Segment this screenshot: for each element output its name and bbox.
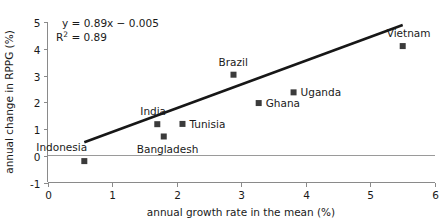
point-label-tunisia: Tunisia: [188, 118, 225, 130]
y-tick-label-4: 4: [34, 44, 41, 56]
y-tick-label-5: 5: [34, 17, 41, 29]
marker-vietnam: [400, 43, 406, 49]
x-tick-label-1: 1: [109, 189, 116, 201]
x-axis-tick-labels: 0123456: [45, 189, 439, 201]
marker-indonesia: [81, 158, 87, 164]
x-tick-label-0: 0: [45, 189, 52, 201]
point-label-bangladesh: Bangladesh: [137, 143, 199, 155]
trend-line: [84, 25, 402, 142]
point-label-uganda: Uganda: [301, 86, 342, 98]
point-label-indonesia: Indonesia: [36, 141, 87, 153]
marker-brazil: [231, 72, 237, 78]
r-squared-prefix: R: [56, 31, 63, 43]
data-point-labels: IndonesiaIndiaBangladeshTunisiaBrazilGha…: [36, 27, 430, 155]
x-axis-ticks: [49, 183, 436, 187]
marker-tunisia: [179, 121, 185, 127]
marker-bangladesh: [161, 133, 167, 139]
point-label-brazil: Brazil: [219, 56, 248, 68]
x-tick-label-6: 6: [432, 189, 439, 201]
regression-equation: y = 0.89x − 0.005: [62, 17, 159, 29]
y-tick-label-3: 3: [34, 71, 41, 83]
y-tick-label-1: 1: [34, 124, 41, 136]
r-squared-annotation: R2 = 0.89: [56, 30, 107, 43]
y-axis-ticks: [44, 23, 48, 184]
r-squared-value: = 0.89: [68, 31, 107, 43]
y-tick-label-2: 2: [34, 97, 41, 109]
y-tick-label--1: -1: [30, 178, 40, 190]
scatter-chart: -1012345 0123456 IndonesiaIndiaBanglades…: [0, 0, 446, 223]
y-axis-tick-labels: -1012345: [30, 17, 41, 190]
marker-india: [154, 121, 160, 127]
y-axis-title: annual change in RPPG (%): [3, 30, 15, 174]
x-tick-label-2: 2: [174, 189, 181, 201]
marker-ghana: [256, 100, 262, 106]
x-tick-label-4: 4: [303, 189, 310, 201]
x-tick-label-5: 5: [367, 189, 374, 201]
marker-uganda: [291, 89, 297, 95]
x-axis-title: annual growth rate in the mean (%): [147, 206, 335, 218]
point-label-india: India: [140, 105, 166, 117]
point-label-vietnam: Vietnam: [387, 27, 431, 39]
chart-canvas: -1012345 0123456 IndonesiaIndiaBanglades…: [0, 0, 446, 223]
x-tick-label-3: 3: [238, 189, 245, 201]
point-label-ghana: Ghana: [266, 97, 300, 109]
